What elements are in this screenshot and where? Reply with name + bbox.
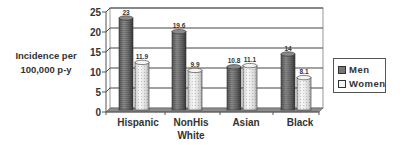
gridline-side: [106, 68, 110, 72]
gridline-side: [106, 48, 110, 52]
bar-value-label: 19.6: [173, 22, 186, 29]
legend-item-men: Men: [338, 64, 370, 75]
y-tick-label: 25: [90, 7, 102, 18]
bar-women-2: [243, 63, 257, 110]
y-tick-label: 20: [90, 27, 102, 38]
bar-value-label: 11.1: [244, 56, 257, 63]
legend-swatch-men: [338, 66, 346, 74]
bar-value-label: 23: [122, 9, 130, 16]
bar-men-2: [227, 65, 241, 110]
bar-women-0: [135, 60, 149, 110]
bar-texture: [281, 54, 295, 110]
bar-men-3: [281, 52, 295, 110]
x-category-label: Hispanic: [117, 117, 159, 128]
y-tick-label: 10: [90, 67, 102, 78]
bar-top: [119, 16, 133, 20]
bar-texture: [172, 32, 186, 110]
x-category-label: White: [177, 130, 205, 141]
bar-men-1: [172, 29, 186, 110]
bar-texture: [297, 78, 311, 110]
bar-value-label: 10.8: [228, 57, 241, 64]
bar-texture: [188, 70, 202, 110]
y-tick-label: 15: [90, 47, 102, 58]
bar-women-3: [297, 75, 311, 110]
bar-value-label: 11.9: [136, 53, 149, 60]
x-category-label: Asian: [232, 117, 259, 128]
x-category-label: NonHis: [174, 117, 209, 128]
bar-texture: [135, 62, 149, 110]
gridline-side: [106, 8, 110, 12]
x-category-label: Black: [287, 117, 314, 128]
legend-label-men: Men: [349, 64, 370, 75]
bar-texture: [119, 18, 133, 110]
bar-value-label: 9.9: [190, 61, 199, 68]
bar-top: [188, 68, 202, 72]
legend-label-women: Women: [349, 78, 386, 89]
bar-texture: [227, 67, 241, 110]
bar-top: [297, 75, 311, 79]
bar-value-label: 8.1: [299, 68, 308, 75]
y-tick-label: 0: [95, 107, 101, 118]
bar-top: [135, 60, 149, 64]
bar-top: [172, 29, 186, 33]
legend-item-women: Women: [338, 78, 386, 89]
bar-top: [281, 52, 295, 56]
bar-women-1: [188, 68, 202, 110]
legend-swatch-women: [338, 80, 346, 88]
legend: Men Women: [333, 58, 386, 93]
gridline-side: [106, 88, 110, 92]
bar-texture: [243, 66, 257, 110]
bar-top: [243, 63, 257, 67]
gridline-side: [106, 28, 110, 32]
bar-value-label: 14: [284, 45, 292, 52]
bar-men-0: [119, 16, 133, 110]
y-tick-label: 5: [95, 87, 101, 98]
bar-top: [227, 65, 241, 69]
